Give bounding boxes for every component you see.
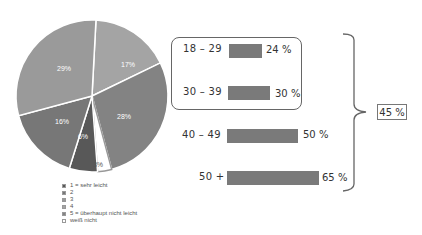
curly-brace bbox=[0, 0, 422, 235]
total-value-box: 45 % bbox=[377, 104, 407, 120]
